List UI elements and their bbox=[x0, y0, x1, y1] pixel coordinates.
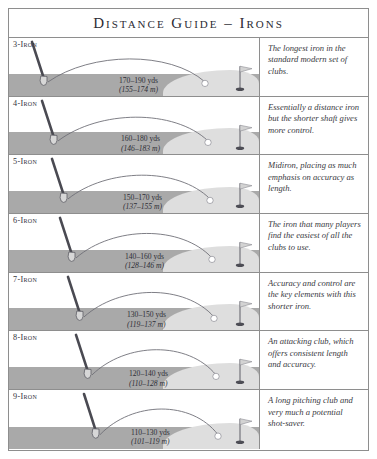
golf-ball bbox=[207, 198, 213, 204]
ball-flight-diagram: 7-Iron130–150 yds(119–137 m) bbox=[9, 273, 260, 331]
distance-label: 150–170 yds(137–155 m) bbox=[123, 193, 162, 212]
golf-ball bbox=[202, 80, 208, 86]
club-description-cell: A long pitching club and very much a pot… bbox=[260, 390, 368, 449]
golf-ball bbox=[209, 256, 215, 262]
hole-cup bbox=[236, 441, 244, 445]
distance-metres: (155–174 m) bbox=[119, 85, 158, 94]
flag-icon bbox=[240, 66, 252, 72]
flag-icon bbox=[240, 184, 252, 190]
iron-row: 4-Iron160–180 yds(146–183 m)Essentially … bbox=[9, 97, 368, 156]
club-description: Essentially a distance iron but the shor… bbox=[268, 102, 361, 136]
iron-row: 6-Iron140–160 yds(128–146 m)The iron tha… bbox=[9, 214, 368, 273]
golf-ball bbox=[205, 139, 211, 145]
club-head bbox=[68, 252, 75, 261]
golf-ball bbox=[211, 315, 217, 321]
flag-icon bbox=[240, 301, 252, 307]
club-head bbox=[76, 311, 83, 320]
ball-flight-diagram: 4-Iron160–180 yds(146–183 m) bbox=[9, 97, 260, 155]
hole-cup bbox=[236, 205, 244, 209]
iron-row: 8-Iron120–140 yds(110–128 m)An attacking… bbox=[9, 331, 368, 390]
hole-cup bbox=[236, 146, 244, 150]
club-label: 7-Iron bbox=[13, 275, 37, 284]
flag-icon bbox=[240, 419, 252, 425]
distance-metres: (146–183 m) bbox=[121, 144, 160, 153]
table-title-bar: Distance Guide – Irons bbox=[9, 9, 368, 38]
distance-metres: (119–137 m) bbox=[127, 320, 166, 329]
club-description-cell: Accuracy and control are the key element… bbox=[260, 273, 368, 331]
distance-metres: (101–119 m) bbox=[131, 437, 170, 446]
distance-label: 160–180 yds(146–183 m) bbox=[121, 134, 160, 153]
distance-label: 120–140 yds(110–128 m) bbox=[129, 369, 168, 388]
iron-row: 7-Iron130–150 yds(119–137 m)Accuracy and… bbox=[9, 273, 368, 332]
hole-cup bbox=[236, 88, 244, 92]
club-label: 6-Iron bbox=[13, 216, 37, 225]
club-description: The longest iron in the standard modern … bbox=[268, 43, 361, 77]
iron-row: 3-Iron170–190 yds(155–174 m)The longest … bbox=[9, 38, 368, 97]
club-label: 9-Iron bbox=[13, 392, 37, 401]
distance-guide-table: Distance Guide – Irons 3-Iron170–190 yds… bbox=[8, 8, 369, 451]
distance-metres: (110–128 m) bbox=[129, 379, 168, 388]
club-head bbox=[40, 76, 47, 85]
distance-yards: 170–190 yds bbox=[119, 76, 158, 85]
club-description-cell: Midiron, placing as much emphasis on acc… bbox=[260, 155, 368, 213]
club-description-cell: The iron that many players find the easi… bbox=[260, 214, 368, 272]
club-head bbox=[84, 369, 91, 378]
club-description: Midiron, placing as much emphasis on acc… bbox=[268, 160, 361, 194]
distance-metres: (128–146 m) bbox=[125, 261, 164, 270]
distance-guide-page: Distance Guide – Irons 3-Iron170–190 yds… bbox=[0, 0, 377, 459]
club-description-cell: Essentially a distance iron but the shor… bbox=[260, 97, 368, 155]
club-head bbox=[92, 429, 99, 439]
distance-yards: 160–180 yds bbox=[121, 134, 160, 143]
club-description-cell: An attacking club, which offers consiste… bbox=[260, 331, 368, 389]
distance-yards: 120–140 yds bbox=[129, 369, 168, 378]
distance-yards: 130–150 yds bbox=[127, 310, 166, 319]
distance-label: 130–150 yds(119–137 m) bbox=[127, 310, 166, 329]
club-description: The iron that many players find the easi… bbox=[268, 219, 361, 253]
club-head bbox=[60, 193, 67, 202]
ball-flight-diagram: 8-Iron120–140 yds(110–128 m) bbox=[9, 331, 260, 389]
golf-ball bbox=[213, 374, 219, 380]
flag-icon bbox=[240, 360, 252, 366]
club-description: A long pitching club and very much a pot… bbox=[268, 395, 361, 429]
ball-flight-diagram: 9-Iron110–130 yds(101–119 m) bbox=[9, 390, 260, 449]
club-label: 8-Iron bbox=[13, 333, 37, 342]
distance-yards: 140–160 yds bbox=[125, 252, 164, 261]
club-description: Accuracy and control are the key element… bbox=[268, 278, 361, 312]
flag-icon bbox=[240, 125, 252, 131]
club-head bbox=[50, 135, 57, 144]
hole-cup bbox=[236, 381, 244, 385]
club-label: 3-Iron bbox=[13, 40, 37, 49]
distance-yards: 110–130 yds bbox=[131, 428, 170, 437]
distance-label: 170–190 yds(155–174 m) bbox=[119, 76, 158, 95]
hole-cup bbox=[236, 322, 244, 326]
hole-cup bbox=[236, 264, 244, 268]
ball-flight-diagram: 6-Iron140–160 yds(128–146 m) bbox=[9, 214, 260, 272]
iron-row: 9-Iron110–130 yds(101–119 m)A long pitch… bbox=[9, 390, 368, 449]
page-title: Distance Guide – Irons bbox=[93, 15, 284, 32]
club-description: An attacking club, which offers consiste… bbox=[268, 336, 361, 370]
golf-ball bbox=[215, 433, 221, 439]
club-label: 5-Iron bbox=[13, 157, 37, 166]
distance-label: 110–130 yds(101–119 m) bbox=[131, 428, 170, 447]
iron-row: 5-Iron150–170 yds(137–155 m)Midiron, pla… bbox=[9, 155, 368, 214]
iron-rows: 3-Iron170–190 yds(155–174 m)The longest … bbox=[9, 38, 368, 449]
club-description-cell: The longest iron in the standard modern … bbox=[260, 38, 368, 96]
ball-flight-diagram: 5-Iron150–170 yds(137–155 m) bbox=[9, 155, 260, 213]
ball-flight-diagram: 3-Iron170–190 yds(155–174 m) bbox=[9, 38, 260, 96]
distance-metres: (137–155 m) bbox=[123, 202, 162, 211]
flag-icon bbox=[240, 242, 252, 248]
distance-yards: 150–170 yds bbox=[123, 193, 162, 202]
club-label: 4-Iron bbox=[13, 99, 37, 108]
distance-label: 140–160 yds(128–146 m) bbox=[125, 252, 164, 271]
